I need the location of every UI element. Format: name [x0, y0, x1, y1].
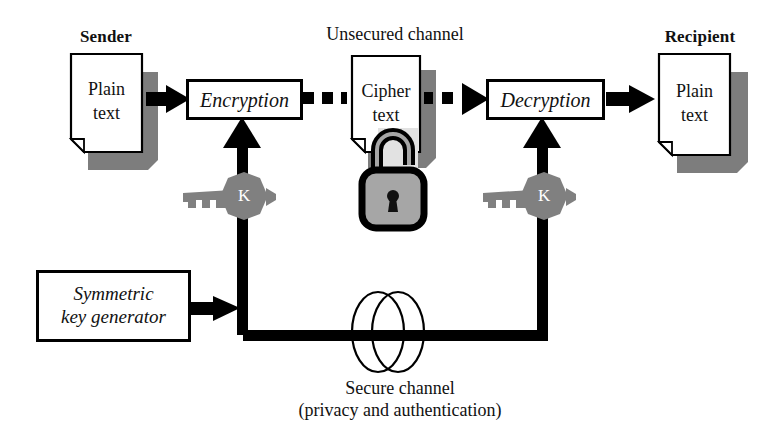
- arrowhead: [213, 296, 240, 321]
- arrow-keygen-to-channel: [190, 296, 240, 321]
- dot: [341, 92, 347, 104]
- encryption-key-icon: [183, 172, 276, 220]
- dot: [442, 92, 453, 104]
- arrowhead: [462, 83, 489, 115]
- encryption-key-label: K: [238, 186, 250, 206]
- dotted-link-encryption-to-cipher: [303, 92, 347, 104]
- document-fold-corner: [71, 139, 84, 152]
- document-line-1: Plain: [659, 80, 730, 103]
- diagram-graphics: [0, 0, 767, 441]
- document-fold-corner: [659, 142, 672, 155]
- key-generator-label-line1: Symmetric: [73, 283, 153, 306]
- document-fold-corner: [352, 139, 365, 152]
- symmetric-key-generator-box[interactable]: Symmetric key generator: [36, 270, 191, 342]
- cryptography-diagram: Sender Recipient Unsecured channel Secur…: [0, 0, 767, 441]
- document-line-1: Plain: [71, 78, 142, 101]
- key-arrow-to-decryption: [523, 117, 561, 335]
- document-line-2: text: [71, 102, 142, 125]
- dot: [322, 92, 333, 104]
- encryption-box[interactable]: Encryption: [186, 79, 303, 120]
- decryption-key-icon: [483, 172, 576, 220]
- encryption-box-label: Encryption: [200, 88, 289, 112]
- decryption-key-label: K: [538, 186, 550, 206]
- arrowhead: [223, 117, 261, 148]
- decryption-box[interactable]: Decryption: [486, 79, 605, 120]
- arrow-decryption-to-plaintext: [606, 85, 655, 113]
- dot: [303, 92, 314, 104]
- secure-channel-bottom-line: [243, 330, 548, 341]
- dot: [424, 92, 433, 104]
- key-arrow-to-encryption: [223, 117, 261, 335]
- arrowhead: [523, 117, 561, 148]
- document-line-2: text: [659, 104, 730, 127]
- document-line-2: text: [352, 104, 420, 127]
- document-line-1: Cipher: [352, 80, 420, 103]
- decryption-box-label: Decryption: [501, 88, 591, 112]
- key-generator-label-line2: key generator: [61, 306, 166, 329]
